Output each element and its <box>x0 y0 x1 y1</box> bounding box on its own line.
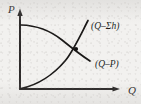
plot-canvas: P Q (Q–Σh) (Q–P) <box>0 0 141 104</box>
falling-curve-qp <box>21 25 90 61</box>
x-axis-arrowhead-icon <box>113 86 121 91</box>
rising-curve-q-sigma-h <box>21 21 88 89</box>
intersection-point-dot <box>74 47 78 51</box>
rising-curve-label: (Q–Σh) <box>91 21 119 32</box>
y-axis-label: P <box>7 3 15 15</box>
figure-container: P Q (Q–Σh) (Q–P) <box>0 0 141 104</box>
falling-curve-label: (Q–P) <box>95 59 119 70</box>
x-axis-label: Q <box>128 84 136 96</box>
y-axis-arrowhead-icon <box>17 9 22 17</box>
